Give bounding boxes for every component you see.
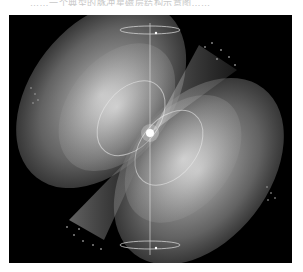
figure-frame xyxy=(9,15,292,263)
figure-caption: ……一个典型的脉冲星磁层结构示意图…… xyxy=(30,0,280,6)
magnetosphere-illustration xyxy=(9,15,292,263)
top-rotation-arrow-icon xyxy=(155,32,157,34)
bottom-rotation-arrow-icon xyxy=(155,247,157,249)
